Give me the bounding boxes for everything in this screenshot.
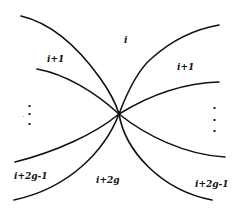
region-label-lower-left: i+2g-1 xyxy=(14,172,48,181)
top-right-arc xyxy=(119,25,219,114)
region-label-upper-right: i+1 xyxy=(177,63,194,72)
bottom-left-arc xyxy=(14,114,119,200)
region-label-bottom: i+2g xyxy=(96,176,120,185)
top-left-arc xyxy=(21,16,119,114)
right-ellipsis-dots xyxy=(214,107,216,132)
upper-right-arc xyxy=(119,82,219,114)
region-label-top: i xyxy=(124,36,127,45)
region-label-lower-right: i+2g-1 xyxy=(195,180,229,189)
lower-left-arc xyxy=(15,114,119,162)
left-ellipsis-dots xyxy=(23,105,31,125)
diagram-canvas: i i+1 i+1 i+2g-1 i+2g i+2g-1 xyxy=(0,0,245,214)
upper-left-arc xyxy=(37,69,119,114)
region-label-upper-left: i+1 xyxy=(47,55,64,64)
